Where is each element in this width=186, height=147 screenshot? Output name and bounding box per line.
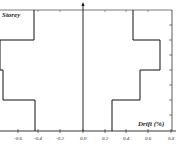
positive-drift-profile [112,10,160,131]
y-axis-label: Storey [2,11,21,19]
svg-text:-0.4: -0.4 [34,136,42,141]
svg-text:0.0: 0.0 [80,136,87,141]
drift-chart: -0.6 -0.4 -0.2 0.0 0.2 0.4 0.6 0.8 Store… [0,0,186,147]
x-axis-label: Drift (%) [137,120,164,128]
right-ticks [169,25,172,115]
svg-text:-0.6: -0.6 [14,136,22,141]
x-tick-labels: -0.6 -0.4 -0.2 0.0 0.2 0.4 0.6 0.8 [14,136,175,141]
y-axis-arrow-icon [82,2,85,6]
svg-text:-0.2: -0.2 [56,136,64,141]
svg-text:0.8: 0.8 [168,136,175,141]
svg-text:0.6: 0.6 [145,136,152,141]
svg-text:0.4: 0.4 [123,136,130,141]
svg-text:0.2: 0.2 [102,136,109,141]
negative-drift-profile [0,10,35,131]
